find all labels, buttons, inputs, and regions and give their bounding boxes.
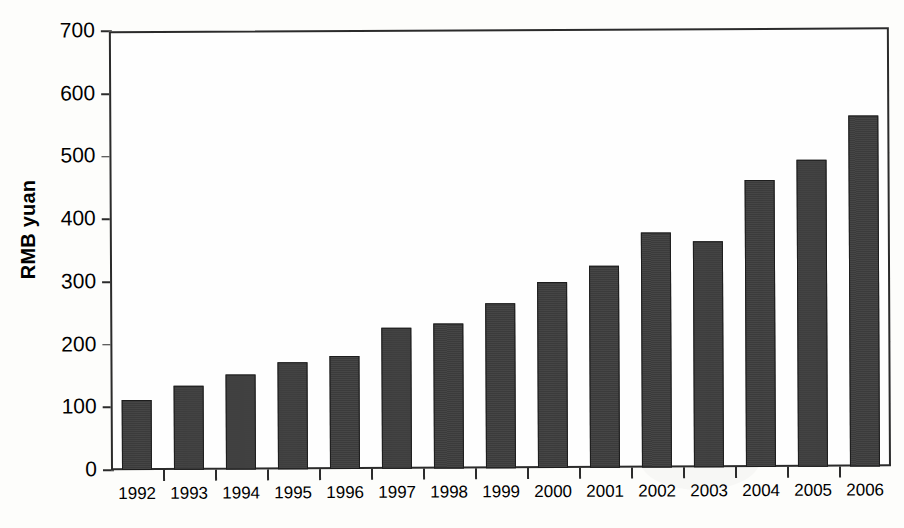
- bar-1997: [381, 328, 412, 469]
- bar-1995: [277, 362, 308, 469]
- y-axis-tick-label: 200: [10, 333, 96, 354]
- bar-2002: [641, 233, 672, 468]
- bars-layer: [109, 27, 891, 470]
- x-axis-tick-label: 1992: [118, 484, 156, 504]
- x-axis-tick-mark: [267, 469, 269, 480]
- x-axis-tick-label: 2002: [638, 481, 676, 501]
- x-axis-tick-label: 1998: [430, 482, 468, 502]
- y-axis-tick-labels: 0100200300400500600700: [0, 0, 97, 528]
- chart-inner: 0100200300400500600700 19921993199419951…: [0, 0, 904, 528]
- x-axis-tick-mark: [787, 467, 789, 478]
- bar-1999: [485, 303, 516, 468]
- x-axis-tick-mark: [163, 470, 165, 481]
- x-axis-tick-mark: [215, 470, 217, 481]
- x-axis-tick-mark: [683, 467, 685, 478]
- bar-1994: [226, 374, 256, 469]
- bar-2003: [693, 241, 724, 468]
- x-axis-tick-mark: [319, 469, 321, 480]
- bar-1993: [174, 386, 204, 470]
- x-axis-tick-label: 1997: [378, 483, 416, 503]
- bar-1998: [433, 324, 464, 469]
- y-axis-tick-label: 600: [9, 82, 95, 103]
- y-axis-tick-label: 0: [11, 458, 97, 479]
- x-axis-tick-mark: [475, 468, 477, 479]
- y-axis-tick-label: 100: [11, 395, 97, 416]
- x-axis-tick-label: 2005: [794, 481, 832, 501]
- bar-2000: [537, 282, 568, 468]
- x-axis-tick-label: 2003: [690, 481, 728, 501]
- y-axis-tick-label: 700: [9, 19, 95, 40]
- x-axis-tick-mark: [631, 468, 633, 479]
- y-axis-tick-label: 400: [10, 207, 96, 228]
- x-axis-tick-label: 1993: [170, 484, 208, 504]
- bar-1992: [122, 400, 152, 470]
- x-axis-tick-label: 1994: [222, 483, 260, 503]
- x-axis-tick-label: 1995: [274, 483, 312, 503]
- x-axis-tick-mark: [371, 469, 373, 480]
- x-axis-tick-mark: [735, 467, 737, 478]
- x-axis-tick-mark: [423, 469, 425, 480]
- x-axis-tick-label: 2006: [846, 480, 884, 500]
- x-axis-tick-mark: [579, 468, 581, 479]
- x-axis-tick-mark: [527, 468, 529, 479]
- bar-2001: [589, 266, 620, 468]
- y-axis-tick-label: 500: [9, 145, 95, 166]
- x-axis-tick-label: 2004: [742, 481, 780, 501]
- bar-2005: [796, 159, 828, 466]
- x-axis-tick-label: 2001: [586, 482, 624, 502]
- x-axis-tick-labels: 1992199319941995199619971998199920002001…: [111, 480, 891, 518]
- y-axis-tick-label: 300: [10, 270, 96, 291]
- x-axis-tick-marks: [111, 466, 891, 482]
- x-axis-tick-mark: [839, 467, 841, 478]
- bar-1996: [329, 356, 360, 469]
- bar-2004: [745, 180, 776, 467]
- x-axis-tick-label: 1996: [326, 483, 364, 503]
- x-axis-tick-label: 1999: [482, 482, 520, 502]
- gridlines: [0, 0, 902, 1]
- bar-chart-figure: RMB yuan 0100200300400500600700 19921993…: [0, 0, 904, 528]
- x-axis-tick-label: 2000: [534, 482, 572, 502]
- bar-2006: [848, 116, 880, 467]
